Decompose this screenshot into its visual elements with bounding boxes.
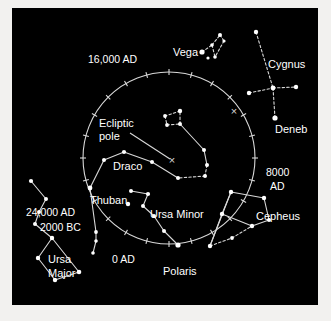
constellation-line-draco [180, 124, 204, 150]
label-thuban: Thuban [90, 194, 127, 206]
star-cep-d [250, 224, 254, 228]
constellation-line-draco [178, 176, 205, 178]
star-umi-d [141, 204, 145, 208]
ecliptic-pole-line1: Ecliptic [99, 117, 134, 129]
constellation-line-lyra [212, 45, 215, 57]
chart-panel: ×× 16,000 AD8000AD24,000 AD2000 BC0 ADVe… [12, 8, 318, 305]
star-uma-f [36, 256, 40, 260]
constellation-line-cepheus [210, 238, 232, 246]
star-cyg-left [247, 91, 251, 95]
ecliptic-pole-leader [130, 133, 170, 159]
precession-tick [83, 179, 89, 181]
epoch-0ad: 0 AD [112, 253, 135, 265]
constellation-line-ursa-minor [164, 231, 178, 245]
marker-cross-upper-right: × [231, 105, 237, 117]
star-vega [199, 49, 204, 54]
star-dra-h [176, 176, 180, 180]
precession-tick [249, 135, 255, 137]
star-umi-a [129, 189, 133, 193]
star-deneb [272, 115, 277, 120]
star-dra-head-b [163, 114, 167, 118]
precession-tick [146, 72, 148, 78]
star-dra-head-c [165, 123, 169, 127]
star-dra-f [205, 163, 209, 167]
star-uma-a [29, 179, 33, 183]
star-dra-i [150, 160, 154, 164]
precession-tick [190, 238, 192, 244]
constellation-line-cepheus [232, 226, 252, 238]
star-lyra-e [218, 33, 222, 37]
star-dra-head-d [178, 122, 182, 126]
marker-group: ×× [169, 105, 237, 166]
label-ursa-major2: Major [48, 267, 76, 279]
label-polaris: Polaris [163, 265, 197, 277]
label-cepheus: Cepheus [256, 210, 300, 222]
star-dra-m [94, 230, 98, 234]
epoch-8000ad2: AD [270, 180, 285, 192]
label-draco: Draco [113, 160, 142, 172]
star-uma-h [77, 270, 82, 275]
label-ursa-major1: Ursa [48, 253, 71, 265]
constellation-line-group [31, 32, 296, 280]
constellation-line-draco [165, 111, 180, 116]
star-umi-b [146, 192, 150, 196]
precession-tick [190, 72, 192, 78]
constellation-line-cepheus [222, 214, 252, 226]
constellation-line-draco [204, 150, 207, 165]
star-lyra-b [206, 56, 209, 59]
constellation-line-cepheus [210, 192, 231, 246]
star-cyg-mid [271, 86, 276, 91]
label-vega: Vega [173, 46, 198, 58]
constellation-line-draco [93, 241, 96, 253]
precession-tick [249, 179, 255, 181]
star-dra-j [122, 150, 126, 154]
leader-line-group [130, 133, 170, 159]
star-uma-d [33, 222, 37, 226]
star-dra-g [203, 174, 207, 178]
constellation-line-draco [90, 160, 104, 188]
epoch-2000bc: 2000 BC [40, 221, 81, 233]
epoch-16000ad: 16,000 AD [88, 53, 137, 65]
star-cep-g [230, 236, 234, 240]
constellation-line-draco [104, 152, 124, 160]
star-dra-e [202, 148, 206, 152]
label-ursa-minor: Ursa Minor [150, 208, 204, 220]
star-dra-n [94, 239, 98, 243]
star-uma-e [50, 236, 54, 240]
star-thuban [88, 186, 93, 191]
ecliptic-pole-line2: pole [99, 130, 120, 142]
constellation-line-cygnus [249, 88, 273, 93]
star-cep-c [220, 212, 224, 216]
label-cygnus: Cygnus [268, 58, 305, 70]
star-cep-b [262, 196, 266, 200]
star-uma-b [44, 197, 48, 201]
epoch-24000ad: 24,000 AD [26, 206, 75, 218]
star-umi-f [162, 229, 166, 233]
star-cep-a [229, 190, 233, 194]
epoch-8000ad: 8000 [266, 166, 289, 178]
star-cyg-right [294, 85, 298, 89]
marker-ecliptic-pole: × [169, 154, 175, 166]
star-dra-o [91, 251, 95, 255]
star-dra-k [102, 158, 106, 162]
star-cep-f [208, 244, 212, 248]
constellation-line-ursa-minor [131, 191, 148, 194]
precession-tick [83, 135, 89, 137]
constellation-line-cygnus [273, 88, 275, 118]
star-dra-head-a [178, 109, 182, 113]
star-polaris [175, 242, 180, 247]
star-lyra-d [213, 55, 217, 59]
precession-tick [146, 238, 148, 244]
star-lyra-f [222, 39, 225, 42]
label-deneb: Deneb [275, 123, 307, 135]
constellation-line-ursa-major [31, 181, 46, 199]
sky-chart-figure: ×× 16,000 AD8000AD24,000 AD2000 BC0 ADVe… [0, 0, 331, 321]
star-cyg-top [254, 30, 258, 34]
star-lyra-c [210, 43, 214, 47]
constellation-line-lyra [215, 41, 224, 57]
constellation-line-cygnus [273, 87, 296, 88]
